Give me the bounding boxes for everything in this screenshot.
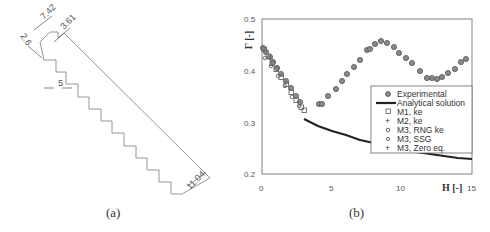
caption-a: (a) [106,205,120,221]
legend-marker-m3-zero: + [385,143,390,153]
diagonal-line [64,33,210,178]
dimension-markers [28,16,206,186]
panel-a-diagram [40,32,210,194]
y-tick-0.2: 0.2 [244,170,256,179]
caption-b: (b) [349,205,364,221]
legend-marker-m2: + [385,116,390,126]
legend-marker-experimental [386,92,391,97]
legend-label-m3-zero: M3, Zero eq. [397,143,445,153]
x-tick-0: 0 [259,184,264,193]
figure-canvas: 2.6 7.42 3.61 5 11.04 0.2 0.3 0.4 0.5 0 … [0,0,490,232]
dim-label-2-6: 2.6 [18,31,33,47]
x-axis-label: H [-] [442,182,462,193]
y-tick-0.5: 0.5 [244,15,256,24]
crest-step-left [40,42,44,60]
dim-label-11-04: 11.04 [184,169,207,192]
x-tick-15: 15 [467,184,476,193]
y-tick-0.3: 0.3 [244,119,256,128]
chart-legend: Experimental Analytical solution M1, ke … [371,86,472,153]
crest-outline [40,32,64,42]
x-tick-10: 10 [396,184,405,193]
dim-label-3-61: 3.61 [58,12,77,31]
x-tick-5: 5 [329,184,334,193]
staircase [44,60,182,194]
model-series-cluster [260,45,306,112]
dim-label-7-42: 7.42 [38,2,57,21]
y-axis-label: Γ [-] [243,31,254,49]
y-tick-0.4: 0.4 [244,67,256,76]
dim-label-5: 5 [58,78,63,88]
